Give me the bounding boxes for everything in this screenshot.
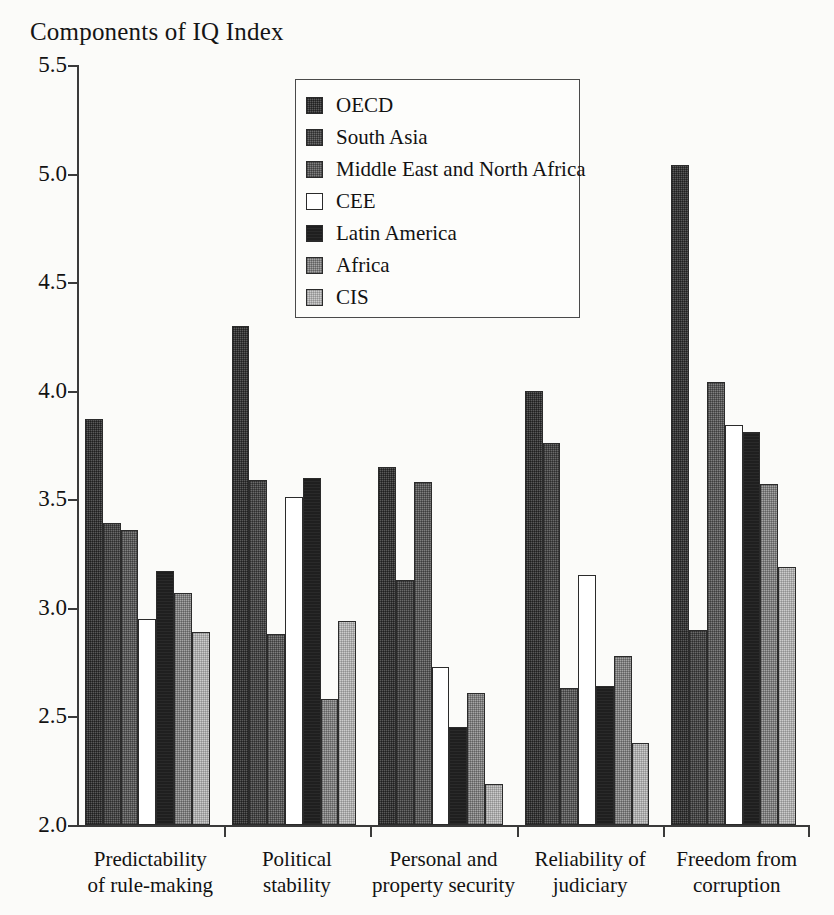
y-tick-label: 2.0 <box>9 812 67 838</box>
chart-title: Components of IQ Index <box>30 18 284 46</box>
legend-swatch-icon <box>306 161 323 178</box>
legend-label: South Asia <box>336 125 428 150</box>
legend-item-south-asia[interactable]: South Asia <box>306 121 579 153</box>
bar-south-asia <box>543 443 561 825</box>
bar-oecd <box>671 165 689 825</box>
chart-figure: Components of IQ Index 5.55.04.54.03.53.… <box>0 0 834 915</box>
bar-cee <box>725 425 743 825</box>
bar-cee <box>578 575 596 825</box>
y-tick-label: 4.5 <box>9 269 67 295</box>
bar-cee <box>432 667 450 826</box>
bar-africa <box>760 484 778 825</box>
y-tick-label: 2.5 <box>9 703 67 729</box>
bar-cee <box>138 619 156 825</box>
bar-africa <box>174 593 192 825</box>
legend-item-cis[interactable]: CIS <box>306 281 579 313</box>
y-tick-label: 5.0 <box>9 161 67 187</box>
bar-oecd <box>232 326 250 825</box>
legend-item-cee[interactable]: CEE <box>306 185 579 217</box>
x-group-separator <box>370 825 372 837</box>
legend-item-africa[interactable]: Africa <box>306 249 579 281</box>
legend-swatch-icon <box>306 289 323 306</box>
legend-swatch-icon <box>306 193 323 210</box>
bar-oecd <box>85 419 103 825</box>
bar-africa <box>321 699 339 825</box>
bar-latin-america <box>743 432 761 825</box>
legend-label: Latin America <box>336 221 457 246</box>
legend-item-oecd[interactable]: OECD <box>306 89 579 121</box>
x-category-label: Freedom fromcorruption <box>649 847 824 898</box>
bar-oecd <box>378 467 396 825</box>
bar-cis <box>778 567 796 825</box>
bar-mena <box>560 688 578 825</box>
bar-south-asia <box>103 523 121 825</box>
bar-south-asia <box>396 580 414 825</box>
legend-label: OECD <box>336 93 393 118</box>
bar-cis <box>632 743 650 826</box>
x-category-label-line: Freedom from <box>649 847 824 873</box>
legend-label: CEE <box>336 189 376 214</box>
legend-item-mena[interactable]: Middle East and North Africa <box>306 153 579 185</box>
y-tick-label: 5.5 <box>9 52 67 78</box>
legend-label: Middle East and North Africa <box>336 157 586 182</box>
bar-mena <box>707 382 725 825</box>
x-group-separator <box>224 825 226 837</box>
bar-africa <box>467 693 485 825</box>
bar-mena <box>414 482 432 825</box>
bar-group <box>663 65 810 825</box>
legend-label: CIS <box>336 285 369 310</box>
bar-south-asia <box>689 630 707 825</box>
bar-oecd <box>525 391 543 825</box>
bar-mena <box>121 530 139 825</box>
bar-latin-america <box>596 686 614 825</box>
bar-cee <box>285 497 303 825</box>
legend-swatch-icon <box>306 129 323 146</box>
legend-box: OECDSouth AsiaMiddle East and North Afri… <box>295 79 580 318</box>
bar-group <box>77 65 224 825</box>
legend-item-latin-america[interactable]: Latin America <box>306 217 579 249</box>
bar-latin-america <box>303 478 321 825</box>
bar-latin-america <box>449 727 467 825</box>
y-tick-label: 3.5 <box>9 486 67 512</box>
bar-cis <box>192 632 210 825</box>
bar-latin-america <box>156 571 174 825</box>
y-tick <box>68 825 79 827</box>
bar-africa <box>614 656 632 825</box>
bar-cis <box>485 784 503 825</box>
legend-swatch-icon <box>306 257 323 274</box>
y-tick-label: 3.0 <box>9 595 67 621</box>
legend-swatch-icon <box>306 225 323 242</box>
x-group-separator <box>517 825 519 837</box>
legend-label: Africa <box>336 253 390 278</box>
x-axis-line <box>77 825 810 827</box>
legend-swatch-icon <box>306 97 323 114</box>
x-group-separator <box>663 825 665 837</box>
bar-cis <box>338 621 356 825</box>
x-axis-end-tick <box>808 825 810 837</box>
bar-mena <box>267 634 285 825</box>
bar-south-asia <box>249 480 267 825</box>
x-category-label-line: corruption <box>649 873 824 899</box>
y-tick-label: 4.0 <box>9 378 67 404</box>
